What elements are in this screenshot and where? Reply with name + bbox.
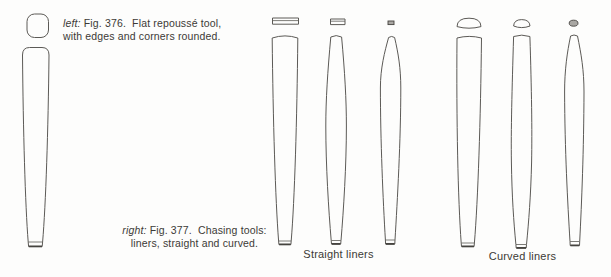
repousse-tool-face [27, 14, 49, 38]
fig-376-caption: left: Fig. 376. Flat repoussé tool, with… [63, 17, 221, 42]
curved-liner-broad-shaft [457, 36, 482, 246]
book-figure-page: left: Fig. 376. Flat repoussé tool, with… [0, 0, 611, 277]
curved-liner-fine-shaft [565, 35, 584, 246]
curved-liner-fine-edge [569, 20, 578, 26]
fig-376-caption-line1: left: Fig. 376. Flat repoussé tool, [63, 17, 221, 30]
curved-liner-broad-edge [457, 18, 481, 28]
curved-liner-fine-drawing [565, 20, 584, 245]
straight-liners-label: Straight liners [288, 248, 389, 260]
straight-liner-broad-edge [273, 18, 299, 24]
straight-liner-medium-drawing [326, 19, 347, 244]
curved-liner-medium-drawing [511, 20, 532, 248]
straight-liner-medium-shaft [326, 36, 347, 244]
flat-repousse-tool-drawing [23, 14, 50, 247]
curved-liners-label: Curved liners [472, 250, 573, 262]
fig-377-caption-line1: right: Fig. 377. Chasing tools: [104, 224, 285, 237]
straight-liner-broad-drawing [272, 18, 298, 245]
curved-liner-medium-edge [514, 20, 530, 28]
fig-376-caption-text: Fig. 376. Flat repoussé tool, [81, 17, 222, 29]
fig-377-caption: right: Fig. 377. Chasing tools: liners, … [104, 224, 285, 249]
straight-liner-broad-shaft [272, 36, 298, 245]
fig-377-caption-line2: liners, straight and curved. [104, 237, 285, 250]
straight-liner-fine-shaft [380, 36, 400, 244]
fig-377-caption-lead: right: [122, 224, 146, 236]
straight-liner-medium-edge [331, 19, 346, 25]
straight-liner-fine-drawing [380, 21, 400, 244]
curved-liner-medium-shaft [511, 35, 532, 248]
fig-376-caption-lead: left: [63, 17, 81, 29]
fig-376-caption-line2: with edges and corners rounded. [63, 30, 221, 43]
straight-liner-fine-edge [388, 21, 394, 25]
curved-liner-broad-drawing [457, 18, 482, 246]
repousse-tool-shaft [23, 48, 50, 247]
fig-377-caption-text: Fig. 377. Chasing tools: [147, 224, 267, 236]
